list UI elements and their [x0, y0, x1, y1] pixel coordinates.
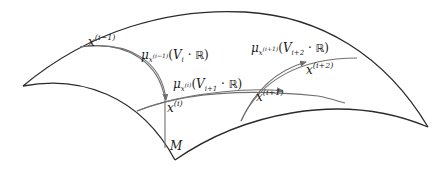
label-geodesic-1: μx(i−1)(Vi · ℝ): [141, 49, 209, 64]
label-x-i-minus-1: x(i−1): [88, 34, 115, 48]
label-geodesic-2: μx(i)(Vi+1 · ℝ): [173, 78, 242, 93]
label-x-i: x(i): [167, 100, 183, 114]
label-x-i-plus-1: x(i+1): [256, 89, 283, 103]
manifold-top-edge: [23, 12, 428, 127]
label-manifold-M: M: [170, 140, 182, 152]
manifold-right-edge: [175, 109, 428, 160]
manifold-left-edge: [23, 83, 175, 160]
manifold-diagram: x(i−1) x(i) x(i+1) x(i+2) M μx(i−1)(Vi ·…: [0, 0, 447, 172]
label-geodesic-3: μx(i+1)(Vi+2 · ℝ): [251, 42, 329, 57]
label-x-i-plus-2: x(i+2): [306, 62, 333, 76]
